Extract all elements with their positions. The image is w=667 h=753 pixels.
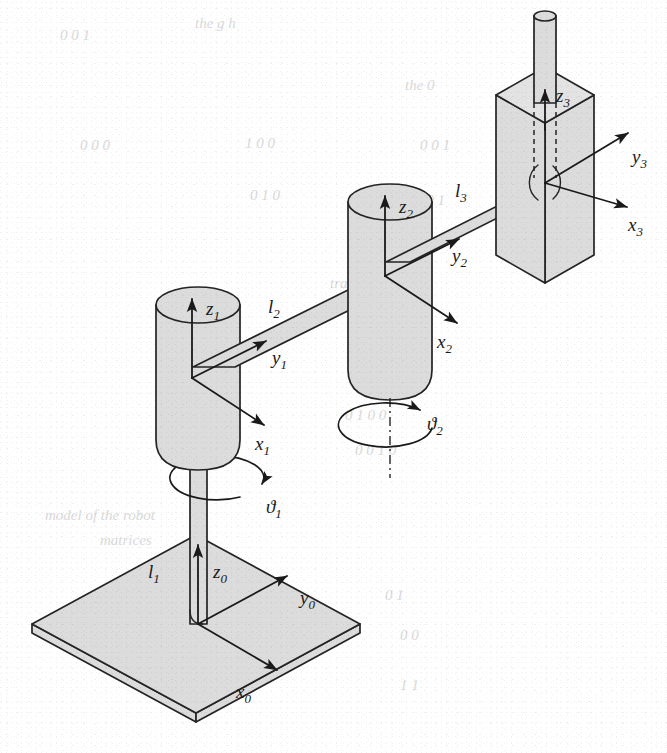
l2-label: l2 bbox=[268, 296, 280, 321]
ghost-line: the 0 bbox=[405, 77, 435, 93]
prismatic-box-right-face bbox=[545, 95, 594, 283]
cylinder2-link2-body bbox=[348, 184, 432, 400]
scara-figure: 0 0 1 the g h the 0 0 0 0 1 0 0 0 0 1 0 … bbox=[0, 0, 667, 753]
cylinder1-barrel bbox=[156, 305, 240, 470]
y3-axis-label: y3 bbox=[630, 146, 647, 171]
cylinder1-link1-body bbox=[156, 287, 240, 470]
ghost-line: 0 0 1 bbox=[60, 27, 90, 43]
scara-diagram-svg: 0 0 1 the g h the 0 0 0 0 1 0 0 0 0 1 0 … bbox=[0, 0, 667, 753]
prismatic-rod-top-cap bbox=[534, 11, 556, 21]
ghost-line: 0 0 0 bbox=[80, 137, 111, 153]
ghost-line: 0 1 0 bbox=[250, 187, 281, 203]
theta2-label: ϑ2 bbox=[427, 413, 443, 438]
y2-axis-label: y2 bbox=[450, 245, 467, 270]
x3-axis-label: x3 bbox=[627, 214, 643, 239]
ghost-line: 0 0 bbox=[400, 627, 419, 643]
ghost-line: the g h bbox=[195, 15, 236, 31]
x1-axis-label: x1 bbox=[254, 433, 270, 458]
theta1-label: ϑ1 bbox=[266, 496, 282, 521]
ghost-line: 1 0 0 bbox=[245, 135, 276, 151]
ghost-line: 0 1 bbox=[385, 587, 404, 603]
ghost-line: model of the robot bbox=[45, 507, 156, 523]
prismatic-box-front-face bbox=[496, 95, 545, 283]
l3-label: l3 bbox=[455, 180, 467, 205]
cylinder1-top-cap bbox=[156, 287, 240, 323]
ghost-line: 1 1 bbox=[400, 677, 419, 693]
joint-angle-labels: ϑ1 ϑ2 bbox=[266, 413, 443, 521]
cylinder2-barrel bbox=[348, 202, 432, 400]
y1-axis-label: y1 bbox=[270, 347, 287, 372]
cylinder2-top-cap bbox=[348, 184, 432, 220]
ghost-line: matrices bbox=[100, 532, 152, 548]
ghost-line: 0 0 1 bbox=[420, 137, 450, 153]
x2-axis-label: x2 bbox=[436, 331, 452, 356]
